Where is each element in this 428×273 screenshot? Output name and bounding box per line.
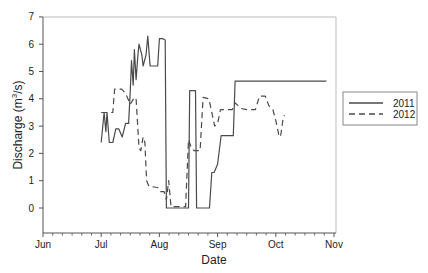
x-tick-label: Sep	[209, 239, 227, 250]
x-ticks: JunJulAugSepOctNov	[35, 233, 343, 250]
y-axis-label: Discharge (m3/s)	[10, 80, 25, 169]
y-tick-label: 5	[28, 66, 34, 77]
y-tick-label: 3	[28, 121, 34, 132]
x-tick-label: Oct	[268, 239, 284, 250]
y-tick-label: 2	[28, 148, 34, 159]
x-tick-label: Jun	[35, 239, 51, 250]
legend-label-2011: 2011	[393, 98, 415, 109]
y-ticks: 01234567	[28, 11, 43, 213]
y-tick-label: 1	[28, 175, 34, 186]
y-tick-label: 0	[28, 203, 34, 214]
legend-label-2012: 2012	[393, 109, 416, 120]
x-axis-label: Date	[201, 253, 227, 267]
x-tick-label: Nov	[325, 239, 343, 250]
legend: 2011 2012	[343, 92, 417, 125]
y-tick-label: 7	[28, 11, 34, 22]
plot-series	[101, 36, 326, 208]
series-line-2012	[101, 89, 284, 206]
y-tick-label: 6	[28, 39, 34, 50]
y-tick-label: 4	[28, 93, 34, 104]
x-tick-label: Aug	[151, 239, 169, 250]
discharge-chart: 01234567 JunJulAugSepOctNov Date Dischar…	[0, 0, 428, 273]
x-tick-label: Jul	[95, 239, 108, 250]
